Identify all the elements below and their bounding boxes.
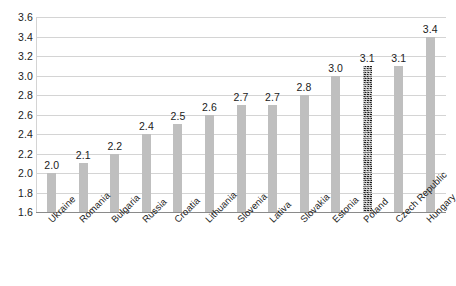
y-axis-tick: 3.2: [0, 51, 33, 61]
y-axis-tick: 3.0: [0, 71, 33, 81]
bar-value-label: 2.7: [256, 92, 290, 103]
y-axis-tick-label: 2.8: [3, 90, 33, 100]
bar: [110, 154, 119, 213]
bar-value-label: 3.0: [319, 63, 353, 74]
bar-value-label: 3.1: [350, 53, 384, 64]
plot-area: [36, 17, 446, 212]
bar: [363, 66, 372, 212]
bar-value-label: 2.1: [66, 150, 100, 161]
y-axis-tick: 1.8: [0, 188, 33, 198]
bar: [205, 115, 214, 213]
y-axis-tick: 2.0: [0, 168, 33, 178]
y-axis-tick-label: 2.4: [3, 129, 33, 139]
bar-value-label: 3.1: [382, 53, 416, 64]
bar: [394, 66, 403, 212]
bar-value-label: 3.4: [413, 24, 447, 35]
y-axis-tick: 1.6: [0, 207, 33, 217]
y-axis-tick: 2.2: [0, 149, 33, 159]
y-axis-tick-label: 3.0: [3, 71, 33, 81]
gridline: [36, 37, 446, 38]
bar-value-label: 2.0: [35, 160, 69, 171]
bar-value-label: 2.8: [287, 82, 321, 93]
gridline: [36, 17, 446, 18]
y-axis-tick: 2.8: [0, 90, 33, 100]
bar: [173, 124, 182, 212]
y-axis-tick-label: 2.0: [3, 168, 33, 178]
bar-value-label: 2.4: [129, 121, 163, 132]
y-axis-tick: 3.4: [0, 32, 33, 42]
y-axis-tick-label: 3.6: [3, 12, 33, 22]
bar-value-label: 2.5: [161, 111, 195, 122]
y-axis-tick-label: 3.2: [3, 51, 33, 61]
bar: [331, 76, 340, 213]
gridline: [36, 76, 446, 77]
y-axis-tick-label: 2.6: [3, 110, 33, 120]
y-axis-tick-label: 3.4: [3, 32, 33, 42]
y-axis-tick: 2.6: [0, 110, 33, 120]
bar: [142, 134, 151, 212]
y-axis-tick: 2.4: [0, 129, 33, 139]
bar-value-label: 2.7: [224, 92, 258, 103]
bar: [79, 163, 88, 212]
bar-value-label: 2.6: [192, 102, 226, 113]
y-axis-tick-label: 2.2: [3, 149, 33, 159]
y-axis-tick-label: 1.8: [3, 188, 33, 198]
bar-chart: 1.61.82.02.22.42.62.83.03.23.43.6 2.02.1…: [0, 0, 456, 286]
y-axis-tick: 3.6: [0, 12, 33, 22]
bar: [300, 95, 309, 212]
bar-value-label: 2.2: [98, 141, 132, 152]
y-axis-tick-label: 1.6: [3, 207, 33, 217]
bar: [268, 105, 277, 212]
